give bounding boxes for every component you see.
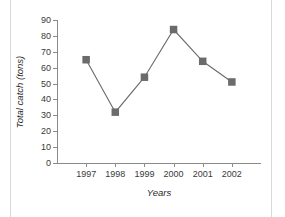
plot-area: 0102030405060708090 19971998199920002001… bbox=[57, 20, 261, 163]
y-tick-label: 50 bbox=[41, 79, 51, 88]
x-tick-label: 2002 bbox=[222, 170, 242, 179]
series-polyline bbox=[86, 30, 232, 113]
chart-figure: Total catch (tons) Years 010203040506070… bbox=[0, 0, 285, 217]
y-tick-label: 20 bbox=[41, 127, 51, 136]
data-point-marker bbox=[141, 73, 149, 81]
y-axis-title: Total catch (tons) bbox=[15, 56, 25, 129]
x-tick-label: 1997 bbox=[76, 170, 96, 179]
right-edge-rule bbox=[271, 0, 272, 217]
y-tick-label: 70 bbox=[41, 47, 51, 56]
series-markers bbox=[82, 26, 235, 116]
data-series-line bbox=[57, 20, 261, 164]
x-tick-label: 2000 bbox=[164, 170, 184, 179]
y-tick-label: 80 bbox=[41, 31, 51, 40]
x-axis-title: Years bbox=[147, 188, 171, 198]
data-point-marker bbox=[170, 26, 178, 33]
y-tick-label: 0 bbox=[46, 159, 51, 168]
y-tick-label: 40 bbox=[41, 95, 51, 104]
data-point-marker bbox=[199, 58, 207, 65]
y-tick-label: 60 bbox=[41, 63, 51, 72]
y-tick-label: 30 bbox=[41, 111, 51, 120]
y-tick-label: 10 bbox=[41, 143, 51, 152]
x-tick-label: 1999 bbox=[134, 170, 154, 179]
x-tick-label: 2001 bbox=[193, 170, 213, 179]
data-point-marker bbox=[228, 78, 236, 86]
data-point-marker bbox=[112, 108, 120, 116]
y-tick-label: 90 bbox=[41, 16, 51, 25]
x-tick-label: 1998 bbox=[105, 170, 125, 179]
data-point-marker bbox=[82, 56, 90, 64]
left-edge-rule bbox=[10, 0, 11, 217]
